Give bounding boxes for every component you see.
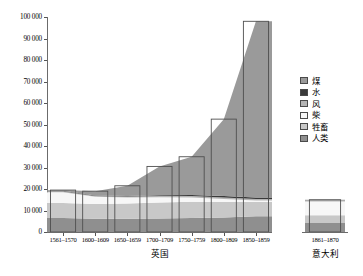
x-axis-tick-label: 1861–1870 <box>295 236 355 243</box>
panel-title-italy: 意大利 <box>295 247 355 259</box>
x-axis-tick-label: 1600–1609 <box>79 236 111 243</box>
y-axis-tick-label: 30 000 <box>0 164 42 172</box>
legend-swatch <box>300 77 308 84</box>
legend-swatch <box>300 123 308 130</box>
x-axis-tick-label: 1850–1859 <box>240 236 272 243</box>
area-band-柴 <box>305 201 345 215</box>
y-axis-tick-label: 60 000 <box>0 99 42 107</box>
x-axis-tick-label: 1800–1809 <box>208 236 240 243</box>
area-band-煤 <box>47 21 272 197</box>
x-axis-tick <box>95 233 96 236</box>
legend-swatch <box>300 89 308 96</box>
legend-label: 牲畜 <box>312 123 328 131</box>
x-axis-tick <box>63 233 64 236</box>
y-axis-tick-label: 40 000 <box>0 142 42 150</box>
y-axis-tick-label: 10 000 <box>0 207 42 215</box>
x-axis-tick <box>224 233 225 236</box>
area-band-人类 <box>47 216 272 232</box>
y-axis-tick-label: 90 000 <box>0 35 42 43</box>
x-axis-tick <box>256 233 257 236</box>
y-axis-tick-label: 70 000 <box>0 78 42 86</box>
legend-label: 柴 <box>312 111 320 119</box>
y-axis-tick-label: 100 000 <box>0 13 42 21</box>
x-axis-line-italy <box>302 232 348 233</box>
plot-area-britain <box>47 17 272 232</box>
y-axis-tick-label: 50 000 <box>0 121 42 129</box>
area-band-牲畜 <box>305 215 345 223</box>
legend-item: 水 <box>300 87 358 99</box>
legend-item: 牲畜 <box>300 121 358 133</box>
legend-label: 水 <box>312 88 320 96</box>
legend-swatch <box>300 135 308 142</box>
x-axis-tick <box>127 233 128 236</box>
legend-swatch <box>300 100 308 107</box>
y-axis-tick-label: 80 000 <box>0 56 42 64</box>
legend-item: 柴 <box>300 110 358 122</box>
chart-legend: 煤水风柴牲畜人类 <box>300 75 358 144</box>
x-axis-tick-label: 1650–1659 <box>111 236 143 243</box>
legend-item: 风 <box>300 98 358 110</box>
x-axis-tick <box>160 233 161 236</box>
area-band-牲畜 <box>47 202 272 219</box>
chart-root: 010 00020 00030 00040 00050 00060 00070 … <box>0 0 363 276</box>
legend-label: 风 <box>312 100 320 108</box>
legend-label: 人类 <box>312 134 328 142</box>
legend-item: 煤 <box>300 75 358 87</box>
legend-swatch <box>300 112 308 119</box>
y-axis-tick-label: 20 000 <box>0 185 42 193</box>
x-axis-tick <box>192 233 193 236</box>
panel-title-britain: 英国 <box>47 247 272 259</box>
legend-item: 人类 <box>300 133 358 145</box>
y-axis-tick-label: 0 <box>0 228 42 236</box>
area-band-人类 <box>305 223 345 232</box>
x-axis-tick-label: 1750–1759 <box>176 236 208 243</box>
x-axis-tick-label: 1700–1709 <box>143 236 175 243</box>
area-band-风 <box>305 201 345 202</box>
x-axis-tick-label: 1561–1570 <box>47 236 79 243</box>
legend-label: 煤 <box>312 77 320 85</box>
